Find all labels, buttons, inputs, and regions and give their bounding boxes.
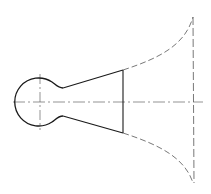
- bell-flare-top-dashed: [123, 17, 193, 70]
- cone-top-edge: [63, 70, 123, 88]
- bell-mouth-dashed: [193, 17, 194, 183]
- cone-bottom-edge: [63, 116, 123, 133]
- horn-technical-drawing: [0, 0, 211, 194]
- bell-flare-bottom-dashed: [123, 133, 193, 183]
